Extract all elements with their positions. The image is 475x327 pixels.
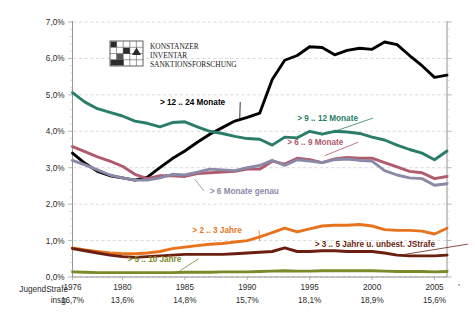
logo-grid-fill-icon xyxy=(111,42,117,48)
footer-value: 18,1% xyxy=(298,296,321,305)
line-chart: 0,0%1,0%2,0%3,0%4,0%5,0%6,0%7,0% 1976198… xyxy=(0,0,475,327)
y-axis-tick-label: 5,0% xyxy=(46,91,65,100)
series-label-leader-3 xyxy=(195,179,204,191)
logo-text-line2: INVENTAR xyxy=(150,51,187,60)
logo-text-line3: SANKTIONSFORSCHUNG xyxy=(150,60,237,69)
y-axis-tick-label: 4,0% xyxy=(46,127,65,136)
y-axis-tick-label: 2,0% xyxy=(46,200,65,209)
footer-caption-line1: JugendStrafe xyxy=(19,285,68,294)
logo-text-line1: KONSTANZER xyxy=(150,42,199,51)
y-axis-tick-label: 6,0% xyxy=(46,54,65,63)
y-axis-tick-label: 0,0% xyxy=(46,273,65,282)
series-line-6 xyxy=(73,271,448,273)
series-label-6: > 5 .. 10 Jahre xyxy=(127,255,181,264)
series-label-leader-6 xyxy=(180,259,199,271)
footer-value: 18,9% xyxy=(360,296,383,305)
series-label-5: > 3 .. 5 Jahre u. unbest. JStrafe xyxy=(315,240,436,249)
y-axis-tick-label: 1,0% xyxy=(46,237,65,246)
footer-value: 15,7% xyxy=(236,296,259,305)
y-axis-tick-label: 3,0% xyxy=(46,164,65,173)
y-axis-tick-labels: 0,0%1,0%2,0%3,0%4,0%5,0%6,0%7,0% xyxy=(46,18,65,282)
series-label-0: > 12 .. 24 Monate xyxy=(160,98,226,107)
logo: KONSTANZERINVENTARSANKTIONSFORSCHUNG xyxy=(110,41,237,69)
x-axis-tick-label: 2005 xyxy=(425,283,444,292)
logo-grid-fill-icon xyxy=(123,48,130,54)
series-label-4: > 2 .. 3 Jahre xyxy=(192,226,242,235)
logo-grid-fill-icon xyxy=(117,54,124,60)
x-axis-tick-label: 1980 xyxy=(113,283,132,292)
series-line-3 xyxy=(73,159,448,185)
series-annotations: > 12 .. 24 Monate> 9 .. 12 Monate> 6 .. … xyxy=(127,98,467,271)
series-label-leader-4 xyxy=(259,230,260,241)
footer-value: 15,6% xyxy=(423,296,446,305)
x-axis-tick-label: 1985 xyxy=(176,283,195,292)
y-axis-tick-label: 7,0% xyxy=(46,18,65,27)
series-line-1 xyxy=(73,93,448,160)
x-axis-end-marker: ' xyxy=(458,283,460,292)
series-label-3: > 6 Monate genau xyxy=(210,187,279,196)
footer-value: 14,8% xyxy=(173,296,196,305)
chart-page: 0,0%1,0%2,0%3,0%4,0%5,0%6,0%7,0% 1976198… xyxy=(0,0,475,327)
footer-values: JugendStrafeinsg.16,7%13,6%14,8%15,7%18,… xyxy=(19,285,446,305)
x-axis-tick-label: 1995 xyxy=(301,283,320,292)
x-axis-tick-labels: 1976198019851990199520002005' xyxy=(63,283,460,292)
series-label-1: > 9 .. 12 Monate xyxy=(297,114,358,123)
x-axis-tick-label: 2000 xyxy=(363,283,382,292)
series-label-2: > 6 .. 9 Monate xyxy=(287,138,344,147)
footer-value: 13,6% xyxy=(111,296,134,305)
x-axis-tick-label: 1990 xyxy=(238,283,257,292)
logo-grid-fill-icon xyxy=(111,60,124,66)
footer-value: 16,7% xyxy=(61,296,84,305)
